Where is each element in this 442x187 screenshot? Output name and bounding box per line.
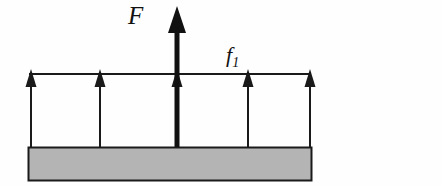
distributed-load-arrow-5 [305,69,316,147]
applied-force-arrow [168,6,186,147]
label-applied-force-F: F [128,3,143,28]
beam-rectangle [29,148,312,181]
distributed-load-arrow-4 [243,69,254,147]
distributed-load-arrow-2 [95,69,106,147]
distributed-load-arrow-1 [26,69,37,147]
force-diagram-figure: F f1 [0,0,442,187]
label-f-subscript: 1 [232,55,239,70]
diagram-canvas [0,0,442,187]
label-distributed-load-f1: f1 [226,44,239,70]
